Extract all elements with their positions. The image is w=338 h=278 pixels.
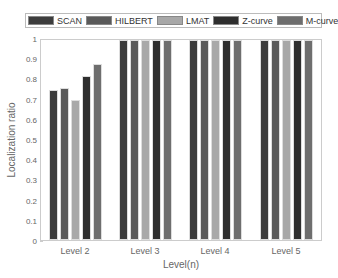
bar [211,40,220,240]
legend-item: SCAN [28,16,82,26]
bar [71,100,80,240]
y-tick-label: 0.5 [26,136,37,145]
bar [93,64,102,240]
bar [271,40,280,240]
y-axis-label: Localization ratio [6,102,17,177]
bar [152,40,161,240]
bar [282,40,291,240]
x-tick-label: Level 4 [200,246,229,256]
legend-item: LMAT [157,16,209,26]
bar [130,40,139,240]
x-tick-label: Level 2 [60,246,89,256]
bar [293,40,302,240]
legend-swatch [157,16,183,25]
legend-item: M-curve [277,16,338,26]
y-tick-mark [40,241,43,242]
y-tick-label: 0.1 [26,216,37,225]
legend-label: M-curve [306,16,338,26]
bar [233,40,242,240]
y-tick-label: 0 [33,237,37,246]
bar [141,40,150,240]
legend-label: HILBERT [115,16,153,26]
x-tick-label: Level 3 [130,246,159,256]
y-tick-label: 1 [33,35,37,44]
x-axis-label: Level(n) [163,259,199,270]
bar [49,90,58,240]
y-tick-label: 0.8 [26,75,37,84]
bar [200,40,209,240]
y-tick-label: 0.2 [26,196,37,205]
legend-swatch [277,16,303,25]
bar [119,40,128,240]
y-tick-label: 0.3 [26,176,37,185]
bar [82,76,91,240]
bar [189,40,198,240]
chart-legend: SCANHILBERTLMATZ-curveM-curve [25,13,322,28]
x-tick-label: Level 5 [271,246,300,256]
y-tick-label: 0.4 [26,156,37,165]
bar [222,40,231,240]
plot-area [40,39,322,241]
legend-item: HILBERT [86,16,153,26]
legend-label: Z-curve [242,16,273,26]
bar [60,88,69,240]
legend-swatch [86,16,112,25]
bar [163,40,172,240]
y-tick-label: 0.7 [26,95,37,104]
legend-label: SCAN [57,16,82,26]
legend-swatch [213,16,239,25]
y-tick-label: 0.6 [26,115,37,124]
bar [304,40,313,240]
y-tick-label: 0.9 [26,55,37,64]
legend-item: Z-curve [213,16,273,26]
bar [260,40,269,240]
legend-swatch [28,16,54,25]
legend-label: LMAT [186,16,209,26]
